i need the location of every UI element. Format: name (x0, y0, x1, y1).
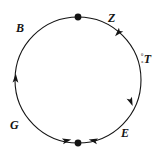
label-t-main: T (144, 53, 151, 65)
top-node-marker (75, 14, 82, 21)
cycle-diagram-graphic (0, 0, 161, 152)
label-e: E (121, 127, 129, 139)
bottom-node-marker (75, 140, 82, 147)
cycle-circle (15, 17, 141, 143)
label-g: G (10, 119, 19, 131)
direction-arrow-lower-right (127, 97, 136, 108)
label-z: Z (108, 12, 115, 24)
direction-arrow-bottom-left (62, 137, 72, 145)
label-b: B (16, 22, 24, 34)
label-t-isotope: 0 a T (141, 53, 151, 66)
diagram-canvas: B Z G E 0 a T (0, 0, 161, 152)
direction-arrow-left (13, 74, 19, 83)
